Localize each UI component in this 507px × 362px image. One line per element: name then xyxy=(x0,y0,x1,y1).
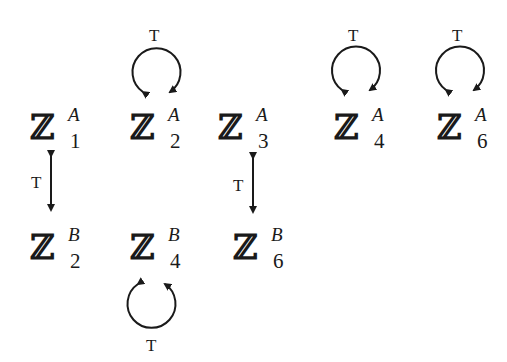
subscript: 4 xyxy=(170,249,181,274)
superscript: A xyxy=(372,104,384,126)
node-z2a: ℤ A 2 xyxy=(130,110,155,144)
node-z1a: ℤ A 1 xyxy=(30,110,55,144)
self-loop-arrow-z6a xyxy=(436,47,484,90)
superscript: A xyxy=(68,104,80,126)
superscript: B xyxy=(168,224,180,246)
z-symbol: ℤ xyxy=(30,110,55,144)
edge-label-z2a-loop: T xyxy=(149,26,159,46)
self-loop-arrow-z2a xyxy=(133,48,181,92)
edge-label-z4b-loop: T xyxy=(146,336,156,356)
self-loop-arrow-z4b xyxy=(127,284,175,328)
edge-label-z4a-loop: T xyxy=(348,26,358,46)
superscript: B xyxy=(271,224,283,246)
z-symbol: ℤ xyxy=(334,110,359,144)
subscript: 3 xyxy=(258,129,269,154)
z-symbol: ℤ xyxy=(130,110,155,144)
subscript: 1 xyxy=(70,129,81,154)
z-symbol: ℤ xyxy=(233,230,258,264)
node-z3a: ℤ A 3 xyxy=(218,110,243,144)
node-z6a: ℤ A 6 xyxy=(437,110,462,144)
self-loop-arrow-z4a xyxy=(332,47,380,90)
edge-label-z1a-z2b: T xyxy=(31,173,41,193)
edge-label-z3a-z6b: T xyxy=(233,176,243,196)
subscript: 4 xyxy=(374,129,385,154)
arrows-layer xyxy=(0,0,507,362)
superscript: A xyxy=(256,104,268,126)
z-symbol: ℤ xyxy=(218,110,243,144)
z-symbol: ℤ xyxy=(30,230,55,264)
node-z4b: ℤ B 4 xyxy=(130,230,155,264)
superscript: A xyxy=(475,104,487,126)
subscript: 6 xyxy=(273,249,284,274)
z-symbol: ℤ xyxy=(437,110,462,144)
subscript: 2 xyxy=(170,129,181,154)
edge-label-z6a-loop: T xyxy=(452,26,462,46)
subscript: 2 xyxy=(70,249,81,274)
z-symbol: ℤ xyxy=(130,230,155,264)
node-z2b: ℤ B 2 xyxy=(30,230,55,264)
superscript: B xyxy=(68,224,80,246)
node-z6b: ℤ B 6 xyxy=(233,230,258,264)
node-z4a: ℤ A 4 xyxy=(334,110,359,144)
subscript: 6 xyxy=(477,129,488,154)
superscript: A xyxy=(168,104,180,126)
